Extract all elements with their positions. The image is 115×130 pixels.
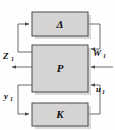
block-diagram-figure: Δ P K Z 1 y 1 W 1 u 1 (0, 0, 115, 130)
block-plant[interactable]: P (32, 45, 91, 95)
wire-plant-to-delta (18, 24, 32, 52)
signal-label-z1: Z 1 (2, 51, 14, 62)
block-controller-label: K (55, 108, 64, 120)
block-delta[interactable]: Δ (32, 12, 91, 39)
wire-plant-to-controller (18, 85, 32, 114)
signal-label-u1-subscript: 1 (102, 89, 105, 95)
signal-label-y1: y 1 (3, 91, 13, 102)
block-controller[interactable]: K (32, 103, 91, 129)
signal-label-u1: u 1 (96, 84, 105, 95)
signal-label-z1-base: Z (2, 51, 9, 61)
signal-label-y1-subscript: 1 (10, 96, 13, 102)
signal-label-y1-base: y (3, 91, 9, 101)
block-delta-label: Δ (56, 18, 64, 30)
block-plant-label: P (57, 62, 64, 74)
signal-label-w1-subscript: 1 (103, 53, 106, 59)
signal-label-z1-subscript: 1 (11, 56, 14, 62)
block-diagram-canvas: Δ P K Z 1 y 1 W 1 u 1 (0, 0, 115, 130)
signal-label-w1-base: W (93, 48, 102, 58)
signal-label-u1-base: u (96, 84, 101, 94)
signal-label-w1: W 1 (93, 48, 106, 59)
